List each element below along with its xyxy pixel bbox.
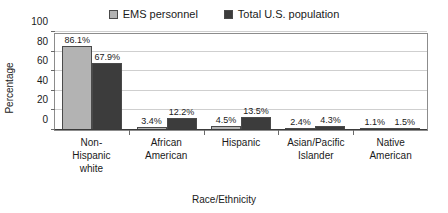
bar-pair: 86.1%67.9% [55,34,129,130]
category-tick-mark [129,130,130,135]
bar-pair: 2.4%4.3% [278,34,352,130]
bar-value-label: 12.2% [169,107,195,117]
bar-group: 3.4%12.2% [129,34,203,130]
x-axis-category-label: NativeAmerican [353,136,428,175]
y-axis-tick-label: 0 [42,115,55,125]
x-axis-category-label-line: American [353,149,428,162]
x-axis-category-label-line: Non- [54,136,129,149]
y-axis-tick-mark [51,31,55,32]
x-axis-category-label-line: white [54,162,129,175]
x-axis-category-label: Hispanic [204,136,279,175]
bar-value-label: 1.5% [395,117,416,127]
x-axis-category-label-line: African [129,136,204,149]
x-axis-category-label-line: Asian/Pacific [278,136,353,149]
x-axis-category-label-line: Native [353,136,428,149]
bar-value-label: 86.1% [64,35,90,45]
legend-label: EMS personnel [123,8,198,20]
bar-value-label: 4.3% [320,115,341,125]
bar-value-label: 1.1% [365,117,386,127]
x-axis-category-label: AfricanAmerican [129,136,204,175]
gridline [55,31,427,32]
y-axis-title: Percentage [4,48,15,128]
x-axis-category-label: Non-Hispanicwhite [54,136,129,175]
x-axis-category-label-line: Hispanic [204,136,279,149]
legend-swatch-icon [224,10,233,19]
chart-legend: EMS personnel Total U.S. population [0,8,448,20]
x-axis-title: Race/Ethnicity [0,194,448,205]
y-axis-tick-label: 100 [31,17,55,27]
x-axis-category-label: Asian/PacificIslander [278,136,353,175]
x-axis-category-label-line: American [129,149,204,162]
x-axis-labels: Non-HispanicwhiteAfricanAmericanHispanic… [54,136,428,175]
y-axis-tick-label: 20 [37,95,55,105]
legend-item-total-us-population[interactable]: Total U.S. population [224,8,340,20]
x-axis-category-label-line: Islander [278,149,353,162]
x-axis-category-label-line: Hispanic [54,149,129,162]
y-axis-tick-label: 80 [37,37,55,47]
bar-group: 1.1%1.5% [353,34,427,130]
bar-chart: EMS personnel Total U.S. population Perc… [0,0,448,213]
bar-group: 86.1%67.9% [55,34,129,130]
bar-pair: 3.4%12.2% [129,34,203,130]
category-tick-mark [278,130,279,135]
bar-value-label: 3.4% [141,116,162,126]
bar-pair: 4.5%13.5% [204,34,278,130]
bar-value-label: 4.5% [216,115,237,125]
legend-label: Total U.S. population [238,8,340,20]
legend-item-ems-personnel[interactable]: EMS personnel [109,8,198,20]
bar[interactable]: 86.1% [62,46,92,130]
y-axis-tick-label: 40 [37,76,55,86]
x-axis-line [55,129,427,130]
bar-value-label: 13.5% [243,106,269,116]
bar-pair: 1.1%1.5% [353,34,427,130]
y-axis-tick-label: 60 [37,56,55,66]
plot-area: 020406080100 86.1%67.9%3.4%12.2%4.5%13.5… [54,33,428,131]
bar[interactable]: 67.9% [92,63,122,130]
legend-swatch-icon [109,10,118,19]
bar-groups: 86.1%67.9%3.4%12.2%4.5%13.5%2.4%4.3%1.1%… [55,34,427,130]
bar-value-label: 2.4% [290,117,311,127]
category-tick-mark [204,130,205,135]
bar-value-label: 67.9% [94,52,120,62]
bar-group: 2.4%4.3% [278,34,352,130]
category-tick-mark [353,130,354,135]
bar-group: 4.5%13.5% [204,34,278,130]
